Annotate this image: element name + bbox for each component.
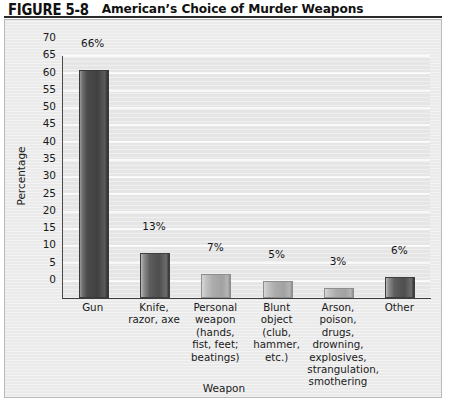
bar: [79, 70, 109, 298]
bar-value-label: 5%: [247, 249, 307, 260]
figure-title-row: FIGURE 5-8 American’s Choice of Murder W…: [8, 0, 442, 17]
bar: [324, 288, 354, 298]
figure-container: FIGURE 5-8 American’s Choice of Murder W…: [0, 0, 450, 402]
x-category-label: Knife, razor, axe: [123, 301, 184, 326]
y-tick-label: 40: [22, 136, 56, 146]
gridline: [63, 211, 430, 213]
bar: [201, 274, 231, 298]
gridline: [63, 159, 430, 161]
gridline: [63, 90, 430, 92]
y-tick-label: 55: [22, 84, 56, 94]
x-axis-line: [62, 298, 431, 300]
x-category-label: Other: [369, 301, 430, 313]
y-tick-label: 65: [22, 49, 56, 59]
y-tick-label: 70: [22, 32, 56, 42]
plot-area: [62, 56, 430, 298]
y-tick-label: 30: [22, 170, 56, 180]
figure-number: FIGURE 5-8: [8, 2, 89, 17]
bar-value-label: 7%: [185, 242, 245, 253]
y-tick-label: 45: [22, 118, 56, 128]
gridline: [63, 72, 430, 74]
gridline: [63, 280, 430, 282]
x-category-label: Blunt object (club, hammer, etc.): [246, 301, 307, 363]
chart-panel: Percentage 0510152025303540455055606570 …: [4, 19, 442, 398]
gridline: [63, 176, 430, 178]
bar: [263, 281, 293, 298]
bar: [385, 277, 415, 298]
y-tick-label: 15: [22, 222, 56, 232]
page-title: American’s Choice of Murder Weapons: [102, 2, 364, 17]
gridline: [63, 193, 430, 195]
bar-value-label: 3%: [308, 256, 368, 267]
gridline: [63, 107, 430, 109]
bar-value-label: 13%: [124, 221, 184, 232]
gridline: [63, 124, 430, 126]
bar-value-label: 66%: [63, 38, 123, 49]
x-category-label: Personal weapon (hands, fist, feet; beat…: [185, 301, 246, 363]
y-tick-label: 0: [22, 274, 56, 284]
bar: [140, 253, 170, 298]
gridline: [63, 55, 430, 57]
y-tick-label: 35: [22, 153, 56, 163]
title-divider: [4, 16, 442, 18]
y-tick-label: 25: [22, 188, 56, 198]
y-tick-label: 5: [22, 257, 56, 267]
x-category-label: Gun: [62, 301, 123, 313]
x-axis-title: Weapon: [5, 382, 443, 394]
y-tick-label: 20: [22, 205, 56, 215]
gridline: [63, 141, 430, 143]
y-tick-label: 60: [22, 67, 56, 77]
gridline: [63, 262, 430, 264]
bar-value-label: 6%: [369, 245, 429, 256]
x-category-label: Arson, poison, drugs, drowning, explosiv…: [307, 301, 368, 388]
y-tick-label: 50: [22, 101, 56, 111]
y-tick-label: 10: [22, 239, 56, 249]
gridline: [63, 228, 430, 230]
